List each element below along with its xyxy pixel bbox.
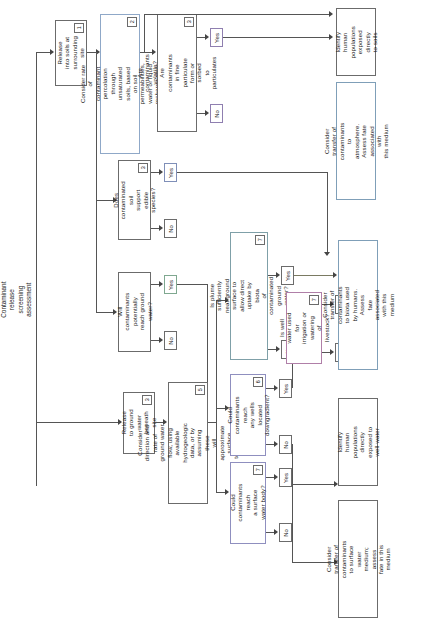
node-marker: 3 (142, 395, 152, 405)
node-marker: 5 (195, 385, 205, 395)
arrow-plume-no (276, 346, 280, 352)
link-edible-no (151, 228, 159, 229)
branch-wells-no[interactable]: No (279, 435, 292, 454)
arrow-edible-no (159, 225, 163, 231)
branch-volatile-yes[interactable]: Yes (210, 28, 223, 47)
arrow-surface-no (274, 529, 278, 535)
branch-edible-no[interactable]: No (164, 219, 177, 238)
link-gwflow-fanout (208, 422, 216, 423)
diagram-title: Contaminant release screening assessment (4, 240, 30, 360)
link-edible-yes-biota-drop (327, 172, 328, 252)
node-reach-ground-water[interactable]: Will contaminants potentially reach grou… (118, 272, 151, 352)
node-wells-downgradient[interactable]: Could contaminants reach any wells locat… (230, 374, 266, 456)
node-transfer-biota[interactable]: Consider transfer of contaminants to bio… (338, 240, 378, 370)
link-fanout-reachgw (96, 312, 113, 313)
node-percolation-rate[interactable]: Consider rate of contaminant percolation… (100, 14, 140, 154)
arrow-reachgw-yes (159, 281, 163, 287)
arrow-top-bypass (329, 11, 333, 17)
arrow-volatile-no (205, 110, 209, 116)
arrow-plume-yes (276, 272, 280, 278)
link-reachgw-yes (151, 284, 159, 285)
link-top-bypass (144, 14, 329, 15)
arrow-wells-no (274, 441, 278, 447)
arrow-volatile-yes (205, 34, 209, 40)
link-reachgw-no (151, 340, 159, 341)
arrow-volatile-yes-atmosphere (329, 34, 333, 40)
spine-left (36, 52, 37, 486)
node-marker: 6 (253, 377, 263, 387)
node-well-water-irrigation[interactable]: Is well water used for irrigation or wat… (286, 292, 322, 364)
node-identify-human-wellwater[interactable]: Identify human populations directly expo… (338, 398, 378, 486)
node-marker: 7 (253, 465, 263, 475)
branch-volatile-no[interactable]: No (210, 104, 223, 123)
link-plume-yes-biota (294, 275, 333, 276)
link-volatile-yes (197, 37, 205, 38)
link-edible-yes (151, 172, 159, 173)
link-reachgw-yes-wrap (177, 284, 207, 285)
node-marker: 1 (74, 23, 84, 33)
node-transfer-atmosphere[interactable]: Consider transfer of contaminants to atm… (336, 82, 376, 200)
branch-reachgw-no[interactable]: No (164, 331, 177, 350)
link-wells-no (266, 444, 274, 445)
arrow-surface-yes (274, 474, 278, 480)
flowchart-canvas: Contaminant release screening assessment… (0, 0, 435, 631)
node-transfer-surface-water[interactable]: Consider transfer of contaminants to sur… (338, 500, 378, 618)
link-plume-no (268, 349, 276, 350)
node-plume-near-surface[interactable]: Is plume sufficiently near ground surfac… (230, 232, 268, 360)
link-1-2 (87, 52, 96, 53)
link-wells-no-run (292, 484, 334, 485)
link-edible-yes-biota (177, 172, 327, 173)
node-marker: 7 (255, 235, 265, 245)
arrow-to-box1 (50, 49, 54, 55)
node-ground-water-flow[interactable]: Consider direction and rate of ground wa… (168, 382, 208, 504)
link-fanout-edible (96, 200, 113, 201)
node-identify-human-soils[interactable]: Identify human populations exposed direc… (336, 8, 376, 76)
node-edible-species[interactable]: Does contaminated soil support edible sp… (118, 160, 151, 240)
link-volatile-yes-atmosphere (223, 37, 329, 38)
arrow-wells-yes (274, 385, 278, 391)
link-spine-releasegw (36, 422, 118, 423)
node-marker: 3 (184, 17, 194, 27)
node-marker: 3 (138, 163, 148, 173)
link-wells-yes (266, 388, 274, 389)
branch-plume-yes[interactable]: Yes (281, 266, 294, 285)
link-top-bypass-riser (144, 14, 145, 52)
branch-edible-yes[interactable]: Yes (164, 163, 177, 182)
arrow-edible-yes (159, 169, 163, 175)
spine-to-box1 (36, 52, 50, 53)
node-surface-water-body[interactable]: Could contaminants reach a surface water… (230, 462, 266, 544)
arrow-wellwater-no (330, 349, 334, 355)
branch-reachgw-yes[interactable]: Yes (164, 275, 177, 294)
arrow-reachgw-no (159, 337, 163, 343)
link-wellwater-no (322, 352, 330, 353)
gwflow-fanout-vertical (216, 300, 217, 492)
link-plume-yes (268, 275, 276, 276)
link-surface-yes-drop (292, 477, 293, 562)
arrow-plume-yes-biota (333, 272, 337, 278)
node-marker: 2 (127, 17, 137, 27)
branch-surface-no[interactable]: No (279, 523, 292, 542)
link-surface-no (266, 532, 274, 533)
link-fanout-wells (216, 408, 225, 409)
node-marker: 7 (309, 295, 319, 305)
fanout-vertical (96, 52, 97, 312)
branch-wells-yes[interactable]: Yes (279, 379, 292, 398)
node-contaminants-volatile[interactable]: Are contaminants volatile? Are contamina… (157, 14, 197, 132)
link-volatile-no (197, 113, 205, 114)
branch-surface-yes[interactable]: Yes (279, 468, 292, 487)
arrow-edible-yes-biota (324, 252, 330, 256)
link-surface-yes (266, 477, 274, 478)
link-fanout-surface (216, 492, 225, 493)
